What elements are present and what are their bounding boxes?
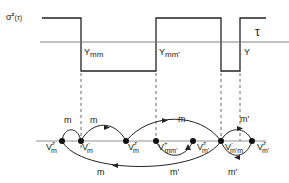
vertex-label: V-m'm [225,140,243,154]
arc-label: m' [228,167,237,177]
arc-loop-1-2 [62,130,81,141]
diagram-canvas: σz(τ) τ Ymm Ymm' Y [0,0,289,183]
arc-upper-5-7 [221,130,252,141]
arrow-left-icon [112,163,118,168]
arc-label: m [97,167,105,177]
arc-label: m [64,115,72,125]
vertex-dot [249,138,255,144]
vertex-label: V+mm' [158,140,178,154]
vertex-label: Vzm' [197,140,209,154]
arc-label: m [90,115,98,125]
interval-label-ymmp: Ymm' [159,47,180,59]
tau-axis-label: τ [255,25,260,39]
vertex-dot [190,138,196,144]
arc-labels: m m m m' m m' m' [64,114,249,177]
vertex-dot [218,138,224,144]
arrow-left-icon [234,155,240,160]
arc-upper-2-3 [81,125,126,141]
arc-upper-3-5 [126,119,221,141]
vertex-dot [59,138,65,144]
vertex-label: Vzm' [257,140,269,154]
dashed-guides [81,73,240,150]
spin-signal-trace [42,18,266,71]
interval-label-y: Y [244,47,250,57]
interval-label-ymm: Ymm [84,47,104,59]
arc-label: m' [170,167,179,177]
arc-label: m' [240,114,249,124]
arc-label: m [178,114,186,124]
vertex-label: Vzm [46,140,57,154]
signal-label: σz(τ) [6,11,22,22]
vertex-label: Vzm [128,140,139,154]
vertex-label: V-m [82,140,93,154]
arrow-right-icon [162,118,168,123]
